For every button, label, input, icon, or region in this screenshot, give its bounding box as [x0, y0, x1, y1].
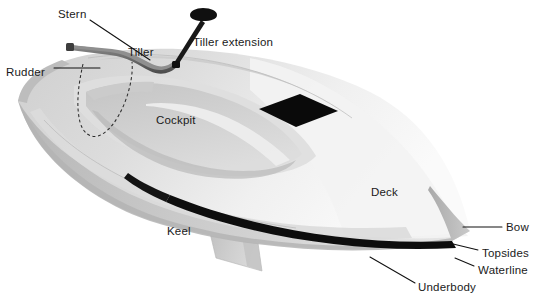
- boat-diagram: Stern Tiller Tiller extension Rudder Coc…: [0, 0, 534, 294]
- underbody-leader: [370, 257, 415, 283]
- label-rudder: Rudder: [6, 66, 45, 78]
- label-waterline: Waterline: [478, 264, 528, 276]
- tiller-extension-joint: [172, 61, 180, 68]
- label-bow: Bow: [506, 221, 529, 233]
- label-underbody: Underbody: [418, 281, 476, 293]
- waterline-leader: [455, 258, 474, 266]
- label-cockpit: Cockpit: [156, 114, 196, 126]
- label-deck: Deck: [371, 186, 398, 198]
- tiller-extension-handle: [190, 8, 217, 21]
- label-tiller: Tiller: [128, 46, 154, 58]
- label-keel: Keel: [167, 225, 191, 237]
- label-stern: Stern: [58, 8, 87, 20]
- tiller-stern-end: [66, 43, 74, 51]
- label-tiller-extension: Tiller extension: [193, 36, 273, 48]
- figure-canvas: Stern Tiller Tiller extension Rudder Coc…: [0, 0, 534, 294]
- label-topsides: Topsides: [482, 247, 529, 259]
- hull-group: [18, 49, 470, 271]
